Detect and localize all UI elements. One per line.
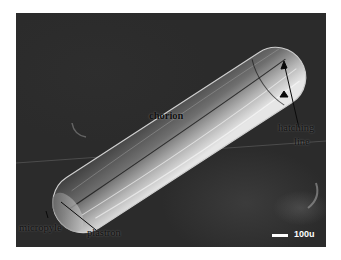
egg-body — [41, 36, 317, 244]
label-chorion: chorion — [149, 111, 183, 122]
label-plastron: plastron — [87, 228, 121, 239]
scale-bar — [272, 234, 288, 237]
scale-bar-label: 100u — [294, 230, 315, 239]
label-micropyle: micropyle — [19, 223, 62, 234]
label-hatching-line-2: line — [294, 137, 310, 148]
sem-micrograph: chorion hatching line micropyle plastron… — [16, 13, 326, 247]
label-hatching-line-1: hatching — [278, 123, 314, 134]
